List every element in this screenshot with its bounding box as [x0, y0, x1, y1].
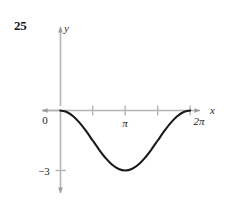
x-tick-label-origin: 0 [42, 114, 48, 126]
x-tick-label-two-pi: 2π [193, 115, 205, 127]
y-tick-label-minus-three: −3 [38, 165, 50, 177]
figure-container: 25 [0, 0, 243, 204]
x-tick-label-pi: π [122, 117, 128, 129]
x-axis-label: x [209, 104, 215, 116]
coordinate-plot: y x 0 π 2π −3 [0, 0, 243, 204]
y-axis-label: y [63, 22, 69, 34]
